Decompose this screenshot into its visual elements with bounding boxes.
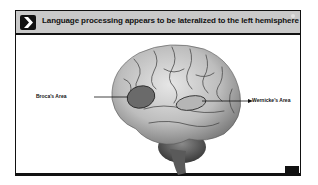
- corner-badge: [285, 166, 299, 173]
- slide-title: Language processing appears to be latera…: [42, 16, 299, 25]
- slide-frame: Language processing appears to be latera…: [15, 10, 301, 176]
- slide-header: Language processing appears to be latera…: [16, 11, 300, 35]
- broca-area-label: Broca's Area: [36, 93, 66, 99]
- brain-illustration: [94, 39, 254, 179]
- chevron-right-icon: [20, 15, 36, 30]
- wernicke-area-label: Wernicke's Area: [252, 97, 290, 103]
- corner-dot-icon: [291, 14, 295, 18]
